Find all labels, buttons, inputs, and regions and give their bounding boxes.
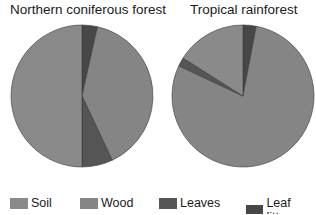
legend-swatch-leaves: [159, 198, 177, 209]
legend-item-wood: Wood: [80, 196, 133, 210]
legend-label-wood: Wood: [101, 196, 133, 210]
legend-label-soil: Soil: [31, 196, 52, 210]
legend-swatch-wood: [80, 198, 98, 209]
legend-label-leaf-litter: Leaf litter: [266, 196, 316, 214]
legend: Soil Wood Leaves Leaf litter: [0, 196, 316, 212]
legend-swatch-soil: [10, 198, 28, 209]
legend-item-leaves: Leaves: [159, 196, 220, 210]
pie-northern-coniferous-forest: [11, 25, 153, 167]
pie-tropical-rainforest: [172, 25, 314, 167]
legend-item-leaf-litter: Leaf litter: [246, 196, 316, 214]
legend-item-soil: Soil: [10, 196, 52, 210]
legend-swatch-leaf-litter: [246, 205, 263, 215]
pie-slice-soil: [11, 25, 82, 167]
pie-charts: [0, 0, 316, 190]
legend-label-leaves: Leaves: [180, 196, 220, 210]
